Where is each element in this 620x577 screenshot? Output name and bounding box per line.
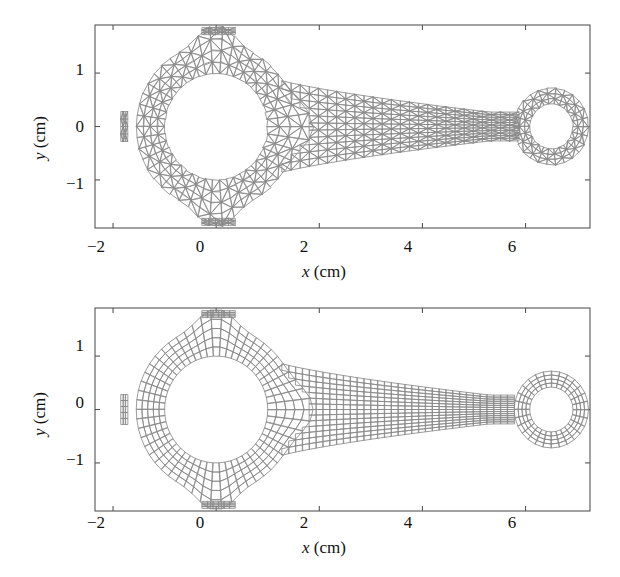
bottom-xtick-6: 6	[500, 514, 524, 531]
bottom-xtick--2: −2	[84, 514, 108, 531]
bottom-y-axis-label: y (cm)	[30, 392, 50, 436]
top-xtick-4: 4	[396, 238, 420, 255]
top-xtick-2: 2	[292, 238, 316, 255]
panel-bottom-quad-mesh: −2 0 2 4 6 1 0 −1 x (cm) y (cm)	[0, 289, 620, 577]
bottom-panel-plot	[0, 289, 620, 577]
top-ytick-0: 0	[58, 118, 84, 135]
top-ytick-1: 1	[58, 61, 84, 78]
top-xtick-0: 0	[188, 238, 212, 255]
bottom-xtick-0: 0	[188, 514, 212, 531]
bottom-ytick-1: 1	[58, 337, 84, 354]
bottom-xtick-4: 4	[396, 514, 420, 531]
bottom-ytick--1: −1	[52, 451, 84, 468]
bottom-x-axis-label: x (cm)	[302, 538, 346, 558]
top-xtick-6: 6	[500, 238, 524, 255]
bottom-ytick-0: 0	[58, 394, 84, 411]
top-y-axis-label: y (cm)	[30, 116, 50, 160]
top-xtick--2: −2	[84, 238, 108, 255]
bottom-xtick-2: 2	[292, 514, 316, 531]
mesh-figure: −2 0 2 4 6 1 0 −1 x (cm) y (cm) −2 0 2 4…	[0, 0, 620, 577]
panel-top-triangular-mesh: −2 0 2 4 6 1 0 −1 x (cm) y (cm)	[0, 0, 620, 288]
top-ytick--1: −1	[52, 175, 84, 192]
top-x-axis-label: x (cm)	[302, 262, 346, 282]
